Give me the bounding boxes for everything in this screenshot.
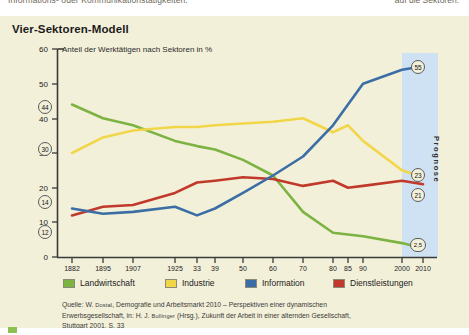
legend-swatch-landwirtschaft — [63, 279, 75, 288]
x-tick-label-1895: 1895 — [89, 265, 117, 272]
legend-label-landwirtschaft: Landwirtschaft — [80, 278, 135, 288]
series-line-dienstleistungen — [72, 177, 423, 215]
y-tick-marks — [52, 49, 58, 257]
source-note: Quelle: W. Dostal, Demografie und Arbeit… — [62, 300, 362, 332]
legend-label-information: Information — [262, 278, 305, 288]
cut-off-text-strip: Informations- oder Kommunikationstätigke… — [0, 0, 469, 16]
y-tick-label-40: 40 — [30, 115, 48, 124]
x-tick-label-39: 39 — [205, 265, 225, 272]
page-bottom-strip — [0, 328, 469, 335]
x-tick-label-60: 60 — [263, 265, 283, 272]
legend-item-dienstleistungen[interactable]: Dienstleistungen — [333, 278, 413, 288]
chart-svg — [0, 16, 469, 278]
legend-swatch-information — [245, 279, 257, 288]
series-line-industrie — [72, 118, 423, 177]
x-tick-marks — [72, 258, 423, 264]
legend-label-industrie: Industrie — [182, 278, 215, 288]
badge-left-dienstleistungen: 12 — [38, 225, 52, 239]
x-tick-label-1882: 1882 — [58, 265, 86, 272]
legend-label-dienstleistungen: Dienstleistungen — [350, 278, 413, 288]
source-author-bullinger: Bullinger — [152, 313, 176, 319]
legend-item-landwirtschaft[interactable]: Landwirtschaft — [63, 278, 135, 288]
badge-left-information: 14 — [38, 195, 52, 209]
x-tick-label-1925: 1925 — [161, 265, 189, 272]
legend-item-industrie[interactable]: Industrie — [165, 278, 215, 288]
x-tick-label-70: 70 — [293, 265, 313, 272]
badge-right-landwirtschaft: 2,5 — [410, 238, 426, 252]
legend-swatch-dienstleistungen — [333, 279, 345, 288]
source-line2-b: (Hrsg.), Zukunft der Arbeit in einer alt… — [175, 312, 351, 319]
badge-left-landwirtschaft: 44 — [38, 100, 52, 114]
legend-item-information[interactable]: Information — [245, 278, 305, 288]
chart-legend: Landwirtschaft Industrie Information Die… — [0, 278, 469, 296]
source-line1-a: Quelle: W. — [62, 301, 95, 308]
legend-swatch-industrie — [165, 279, 177, 288]
source-author-dostal: Dostal — [95, 302, 112, 308]
x-tick-label-1907: 1907 — [119, 265, 147, 272]
cut-off-text-right: auf die Sektoren. — [395, 0, 459, 5]
badge-right-information: 55 — [411, 60, 425, 74]
cut-off-text-left: Informations- oder Kommunikationstätigke… — [8, 0, 188, 5]
figure-panel: Vier-Sektoren-Modell Anteil der Werktäti… — [0, 16, 469, 328]
badge-right-industrie: 23 — [411, 168, 425, 182]
x-tick-label-33: 33 — [187, 265, 207, 272]
x-tick-label-2010: 2010 — [409, 265, 437, 272]
x-tick-label-90: 90 — [353, 265, 373, 272]
y-tick-label-0: 0 — [30, 253, 48, 262]
chart-plot-area: Prognose — [0, 16, 469, 278]
y-tick-label-60: 60 — [30, 45, 48, 54]
y-tick-label-20: 20 — [30, 184, 48, 193]
green-marker-icon — [8, 327, 17, 333]
badge-left-industrie: 30 — [38, 142, 52, 156]
source-line1-b: , Demografie und Arbeitsmarkt 2010 – Per… — [112, 301, 327, 308]
y-tick-label-50: 50 — [30, 80, 48, 89]
badge-right-dienstleistungen: 21 — [411, 188, 425, 202]
series-line-information — [72, 66, 423, 215]
source-line2-a: Erwerbsgesellschaft, in: H. J. — [62, 312, 152, 319]
x-tick-label-50: 50 — [233, 265, 253, 272]
